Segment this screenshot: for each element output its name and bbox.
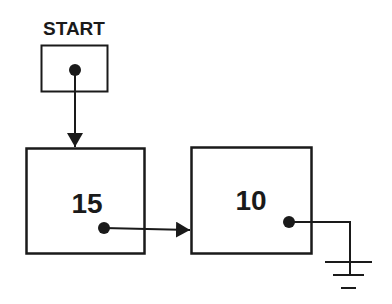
- list-node-2: 10: [192, 148, 351, 276]
- null-ground-icon: [325, 262, 372, 288]
- linked-list-diagram: START 15 10: [0, 0, 392, 304]
- next-arrow: [104, 228, 190, 230]
- null-pointer-line: [289, 222, 350, 275]
- list-node-1: 15: [27, 149, 191, 254]
- node-value: 15: [71, 188, 102, 219]
- start-pointer: [42, 46, 108, 148]
- start-label: START: [43, 18, 105, 39]
- node-value: 10: [235, 185, 266, 216]
